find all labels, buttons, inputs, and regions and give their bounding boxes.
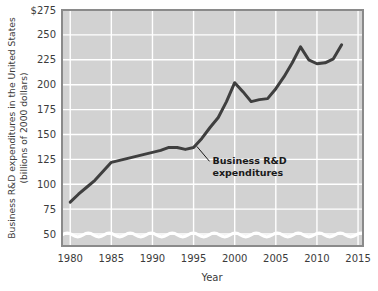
y-axis-tick-label: 250 (37, 29, 56, 40)
y-axis-tick-label: 75 (43, 204, 56, 215)
x-axis-tick-label: 1995 (181, 253, 206, 264)
x-axis-tick-label: 2000 (222, 253, 247, 264)
callout-label-line1: Business R&D (213, 155, 287, 166)
y-axis-tick-label: 50 (43, 229, 56, 240)
x-axis-tick-label: 2010 (304, 253, 329, 264)
y-axis-tick-label: 125 (37, 154, 56, 165)
x-axis-tick-label: 1980 (57, 253, 82, 264)
x-axis-title: Year (200, 272, 223, 283)
y-axis-tick-label: 150 (37, 129, 56, 140)
x-axis-tick-label: 1985 (99, 253, 124, 264)
y-axis-title-line2: (billions of 2000 dollars) (18, 72, 29, 183)
y-axis-tick-label: 200 (37, 79, 56, 90)
callout-label-line2: expenditures (213, 167, 284, 178)
x-axis-tick-label: 2015 (345, 253, 370, 264)
y-axis-tick-label: 175 (37, 104, 56, 115)
plot-background (62, 10, 363, 246)
chart-figure: $2752502252001751501251007550 1980198519… (0, 0, 378, 291)
y-axis-tick-label: 225 (37, 54, 56, 65)
x-axis-tick-label: 2005 (263, 253, 288, 264)
y-axis-tick-label: $275 (31, 5, 56, 16)
x-axis-tick-label: 1990 (140, 253, 165, 264)
y-axis-title-line1: Business R&D expenditures in the United … (6, 17, 17, 239)
y-axis-tick-label: 100 (37, 179, 56, 190)
line-chart: $2752502252001751501251007550 1980198519… (0, 0, 378, 291)
